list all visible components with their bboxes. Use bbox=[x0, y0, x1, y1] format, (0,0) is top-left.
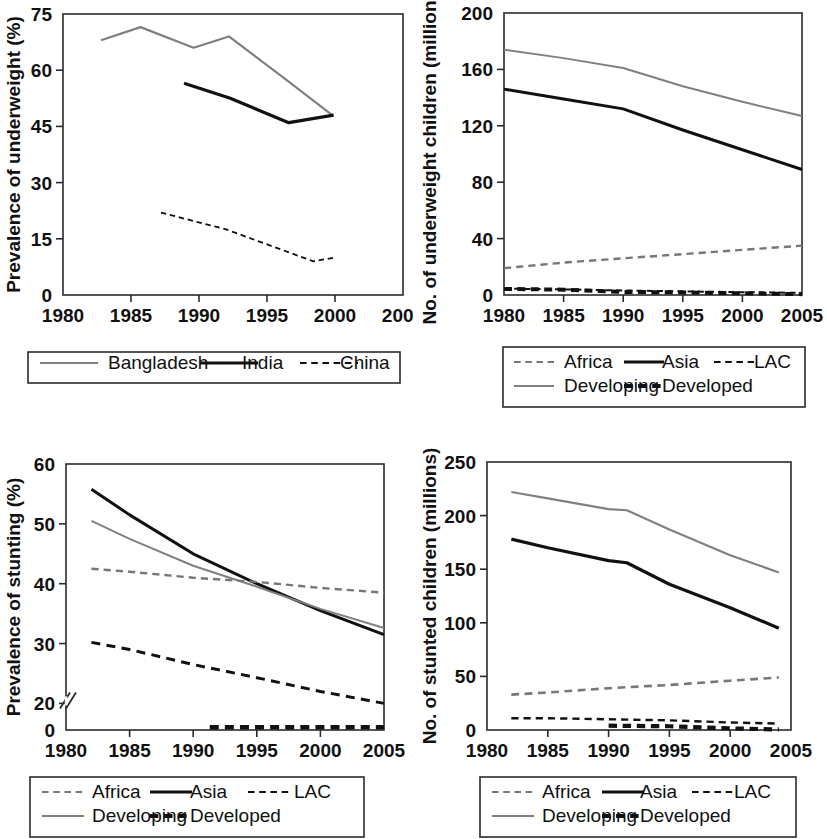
x-tick-label: 1995 bbox=[648, 740, 691, 761]
series-line-developed bbox=[609, 726, 779, 730]
y-tick-label: 75 bbox=[31, 4, 53, 25]
x-tick-label: 2000 bbox=[709, 740, 751, 761]
x-tick-label: 1990 bbox=[587, 740, 629, 761]
y-tick-label: 150 bbox=[444, 559, 476, 580]
x-tick-label: 1980 bbox=[483, 305, 525, 326]
y-tick-label: 30 bbox=[31, 173, 52, 194]
panel-stunting-number: 250200150100500198019851990199520002005N… bbox=[414, 430, 827, 839]
legend-label-lac: LAC bbox=[754, 351, 791, 372]
y-tick-label: 0 bbox=[41, 285, 52, 306]
y-tick-label: 200 bbox=[444, 506, 476, 527]
legend-label-africa: Africa bbox=[564, 351, 613, 372]
y-tick-label: 160 bbox=[461, 59, 493, 80]
legend-label-lac: LAC bbox=[734, 781, 771, 802]
chart-stunting_number: 250200150100500198019851990199520002005N… bbox=[414, 430, 827, 839]
chart-underweight_prevalence: 75604530150198019851990199520002005Preva… bbox=[0, 0, 414, 400]
series-line-china bbox=[161, 213, 335, 262]
x-tick-label: 1990 bbox=[178, 305, 220, 326]
x-tick-label: 1980 bbox=[42, 305, 84, 326]
y-tick-label: 50 bbox=[455, 666, 476, 687]
x-tick-label: 1995 bbox=[662, 305, 705, 326]
panel-stunting-prevalence: 60504030200198019851990199520002005Preva… bbox=[0, 430, 414, 839]
y-axis-title: No. of underweight children (millions) bbox=[419, 0, 440, 324]
x-tick-label: 1985 bbox=[108, 740, 151, 761]
x-tick-label: 2000 bbox=[721, 305, 763, 326]
series-line-asia bbox=[91, 489, 384, 634]
y-tick-label: 0 bbox=[465, 720, 476, 741]
y-tick-label: 250 bbox=[444, 452, 476, 473]
series-line-bangladesh bbox=[101, 27, 332, 115]
x-tick-label: 2005 bbox=[781, 305, 824, 326]
series-line-asia bbox=[504, 89, 802, 169]
x-tick-label: 1995 bbox=[246, 305, 289, 326]
legend-label-asia: Asia bbox=[640, 781, 677, 802]
panel-underweight-prevalence: 75604530150198019851990199520002005Preva… bbox=[0, 0, 414, 400]
series-line-developed bbox=[504, 289, 802, 294]
legend-label-bangladesh: Bangladesh bbox=[108, 352, 208, 373]
legend-label-africa: Africa bbox=[92, 781, 141, 802]
chart-underweight_number: 20016012080400198019851990199520002005No… bbox=[414, 0, 827, 420]
legend-label-developed: Developed bbox=[640, 805, 731, 826]
x-tick-label: 2000 bbox=[299, 740, 341, 761]
y-axis-title: Prevalence of underweight (%) bbox=[3, 16, 24, 293]
y-tick-label: 200 bbox=[461, 3, 493, 24]
legend-label-china: China bbox=[340, 352, 390, 373]
y-tick-label: 40 bbox=[472, 229, 493, 250]
y-tick-label: 100 bbox=[444, 613, 476, 634]
series-line-developing bbox=[504, 50, 802, 116]
four-panel-line-chart-figure: 75604530150198019851990199520002005Preva… bbox=[0, 0, 827, 839]
series-line-africa bbox=[91, 569, 384, 593]
x-tick-label: 1985 bbox=[527, 740, 570, 761]
legend-label-africa: Africa bbox=[542, 781, 591, 802]
x-tick-label: 1980 bbox=[45, 740, 87, 761]
x-tick-label: 2005 bbox=[770, 740, 813, 761]
y-tick-label: 40 bbox=[34, 574, 55, 595]
y-axis-title: Prevalence of stunting (%) bbox=[3, 478, 24, 717]
y-tick-label: 45 bbox=[31, 116, 53, 137]
x-tick-label: 1995 bbox=[236, 740, 279, 761]
legend-label-developed: Developed bbox=[662, 375, 753, 396]
series-line-africa bbox=[504, 246, 802, 269]
x-tick-label: 2005 bbox=[382, 305, 414, 326]
series-line-lac bbox=[511, 718, 779, 723]
x-tick-label: 1985 bbox=[542, 305, 585, 326]
legend-label-lac: LAC bbox=[294, 781, 331, 802]
x-tick-label: 1980 bbox=[466, 740, 508, 761]
x-tick-label: 1985 bbox=[110, 305, 153, 326]
panel-underweight-number: 20016012080400198019851990199520002005No… bbox=[414, 0, 827, 420]
y-tick-label: 15 bbox=[31, 229, 53, 250]
y-tick-label: 120 bbox=[461, 116, 493, 137]
y-tick-label: 60 bbox=[34, 454, 55, 475]
series-line-lac bbox=[91, 642, 384, 703]
series-line-india bbox=[184, 83, 334, 122]
y-tick-label: 0 bbox=[44, 720, 55, 741]
y-tick-label: 80 bbox=[472, 172, 493, 193]
legend-label-developing: Developing bbox=[92, 805, 187, 826]
legend-label-asia: Asia bbox=[190, 781, 227, 802]
series-line-africa bbox=[511, 677, 779, 694]
x-tick-label: 1990 bbox=[172, 740, 214, 761]
y-tick-label: 30 bbox=[34, 634, 55, 655]
legend-label-asia: Asia bbox=[662, 351, 699, 372]
series-line-developing bbox=[511, 492, 779, 572]
series-line-asia bbox=[511, 539, 779, 628]
x-tick-label: 1990 bbox=[602, 305, 644, 326]
y-tick-label: 50 bbox=[34, 514, 55, 535]
y-tick-label: 20 bbox=[34, 693, 55, 714]
x-tick-label: 2000 bbox=[314, 305, 356, 326]
x-tick-label: 2005 bbox=[363, 740, 406, 761]
y-tick-label: 0 bbox=[482, 285, 493, 306]
y-tick-label: 60 bbox=[31, 60, 52, 81]
chart-stunting_prevalence: 60504030200198019851990199520002005Preva… bbox=[0, 430, 414, 839]
y-axis-title: No. of stunted children (millions) bbox=[419, 448, 440, 745]
legend-label-india: India bbox=[242, 352, 284, 373]
legend-label-developed: Developed bbox=[190, 805, 281, 826]
